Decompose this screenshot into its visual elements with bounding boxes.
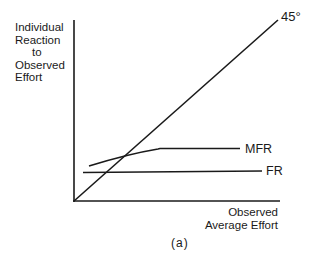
x-axis-label-line: Observed (205, 206, 278, 219)
diagonal-label: 45° (281, 11, 301, 23)
figure-caption: (a) (171, 237, 189, 249)
y-axis-label-line: Observed (15, 59, 65, 72)
y-axis-label-line: Individual (15, 21, 65, 34)
y-axis-label-line: Reaction (15, 34, 65, 47)
y-axis-label-line: to (15, 46, 65, 59)
curve-mfr (89, 149, 240, 167)
x-axis-label-line: Average Effort (205, 219, 278, 232)
mfr-label: MFR (245, 143, 272, 155)
line-45-degree (74, 20, 278, 201)
fr-label: FR (266, 165, 283, 177)
x-axis-label: Observed Average Effort (205, 206, 278, 231)
curve-fr (83, 171, 262, 173)
y-axis-label-line: Effort (15, 71, 65, 84)
y-axis-label: Individual Reaction to Observed Effort (15, 21, 65, 84)
